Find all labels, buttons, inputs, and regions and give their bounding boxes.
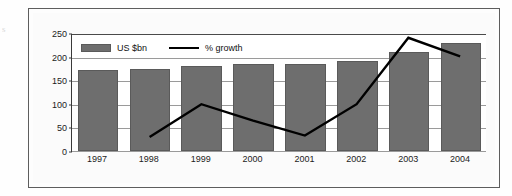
gridline-0: [72, 151, 486, 152]
chart-container: 050100150200250 199719981999200020012002…: [29, 9, 501, 189]
legend-entry-us-bn: US $bn: [81, 43, 147, 53]
x-tick-label-2000: 2000: [243, 154, 263, 164]
y-tick-label-150: 150: [52, 76, 67, 86]
legend-label-us-bn: US $bn: [117, 43, 147, 53]
x-tick-label-2002: 2002: [346, 154, 366, 164]
x-tick-label-2001: 2001: [294, 154, 314, 164]
y-tick-mark-0: [69, 152, 72, 153]
page-margin-mark: s: [2, 24, 11, 34]
x-tick-label-2004: 2004: [450, 154, 470, 164]
y-tick-label-50: 50: [57, 123, 67, 133]
line-swatch-icon: [169, 47, 199, 49]
x-tick-label-1999: 1999: [191, 154, 211, 164]
bar-swatch-icon: [81, 44, 111, 52]
legend-entry-pct-growth: % growth: [169, 43, 243, 53]
x-tick-label-2003: 2003: [398, 154, 418, 164]
x-tick-label-1997: 1997: [87, 154, 107, 164]
y-tick-label-200: 200: [52, 53, 67, 63]
figure-frame: 050100150200250 199719981999200020012002…: [28, 8, 500, 188]
y-tick-label-250: 250: [52, 29, 67, 39]
legend-label-pct-growth: % growth: [205, 43, 243, 53]
x-axis-labels: 19971998199920002001200220032004: [71, 154, 486, 170]
chart-legend: US $bn % growth: [81, 43, 243, 53]
y-tick-label-100: 100: [52, 100, 67, 110]
y-tick-label-0: 0: [62, 147, 67, 157]
x-tick-label-1998: 1998: [139, 154, 159, 164]
